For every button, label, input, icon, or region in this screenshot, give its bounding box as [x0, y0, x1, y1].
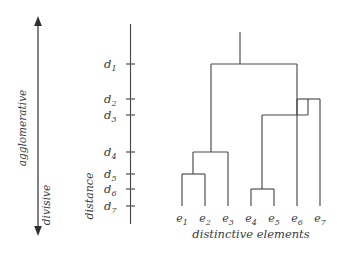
axis-label-d4: d4: [104, 145, 116, 161]
leaf-label-e4: e4: [245, 212, 257, 227]
leaf-label-e1: e1: [176, 212, 188, 227]
distance-axis-title: distance: [83, 172, 96, 219]
arrow-head-down-icon: [34, 226, 42, 236]
label-divisive: divisive: [40, 185, 52, 225]
leaf-label-e6: e6: [291, 212, 303, 227]
leaf-label-e2: e2: [199, 212, 211, 227]
leaf-label-e3: e3: [222, 212, 234, 227]
figure-caption: distinctive elements: [192, 227, 309, 241]
axis-label-d3: d3: [104, 108, 116, 124]
leaf-label-e7: e7: [314, 212, 327, 227]
dendrogram-tree: [182, 32, 320, 206]
axis-label-d1: d1: [104, 57, 116, 73]
axis-label-d7: d7: [104, 199, 117, 215]
dendrogram-figure: agglomerative divisive d1d2d3d4d5d6d7 di…: [0, 0, 337, 254]
label-agglomerative: agglomerative: [16, 90, 28, 167]
leaf-label-group: e1e2e3e4e5e6e7: [176, 212, 327, 227]
axis-label-d5: d5: [104, 167, 116, 183]
axis-label-d6: d6: [104, 182, 116, 198]
leaf-label-e5: e5: [268, 212, 280, 227]
axis-label-d2: d2: [104, 92, 116, 108]
distance-axis-group: d1d2d3d4d5d6d7: [104, 24, 135, 224]
arrow-head-up-icon: [34, 16, 42, 26]
dendrogram-svg: agglomerative divisive d1d2d3d4d5d6d7 di…: [0, 0, 337, 254]
